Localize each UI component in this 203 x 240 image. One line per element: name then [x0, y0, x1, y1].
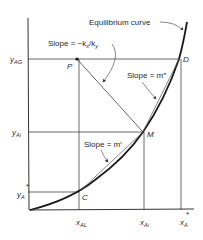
- curve-label-arrow: [160, 22, 183, 30]
- equilibrium-diagram: Equilibrium curve Slope = −kx/ky Slope =…: [0, 0, 203, 240]
- y-ag-label: yAG: [9, 55, 23, 65]
- y-ai-label: yAi: [11, 128, 22, 138]
- y-a-star-label: yA: [16, 190, 25, 200]
- x-ai-label: xAi: [139, 218, 150, 228]
- slope-m-prime-label: Slope = m′: [84, 140, 122, 149]
- point-m-label: M: [147, 130, 154, 139]
- point-p-marker: [75, 57, 78, 60]
- x-al-label: xAL: [75, 218, 87, 228]
- x-a-star-sup: *: [186, 210, 189, 219]
- x-a-star-label: xA: [179, 218, 188, 228]
- equilibrium-curve-label: Equilibrium curve: [89, 18, 151, 27]
- slope-kx-ky-arrow: [103, 44, 115, 82]
- point-p-label: P: [67, 62, 73, 71]
- slope-kx-ky-label: Slope = −kx/ky: [48, 39, 99, 49]
- equilibrium-curve: [30, 22, 187, 210]
- y-a-star-sup: *: [26, 182, 29, 191]
- slope-m-double-prime-label: Slope = m″: [127, 71, 166, 80]
- slope-m-double-prime-arrow: [142, 82, 156, 99]
- point-c-label: C: [82, 193, 88, 202]
- slope-m-prime-arrow: [101, 150, 108, 162]
- x-axis: [29, 209, 194, 210]
- point-d-label: D: [183, 55, 189, 64]
- driving-force-line: [77, 59, 143, 132]
- chord-m-double-prime: [143, 59, 179, 132]
